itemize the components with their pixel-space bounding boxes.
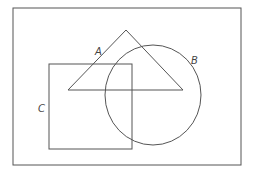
set-a-triangle [68,30,183,90]
set-b-circle [105,45,201,145]
label-c: C [38,103,45,114]
label-a: A [94,46,102,57]
venn-diagram: A B C [0,0,254,175]
label-b: B [191,55,198,66]
set-c-square [49,64,132,149]
